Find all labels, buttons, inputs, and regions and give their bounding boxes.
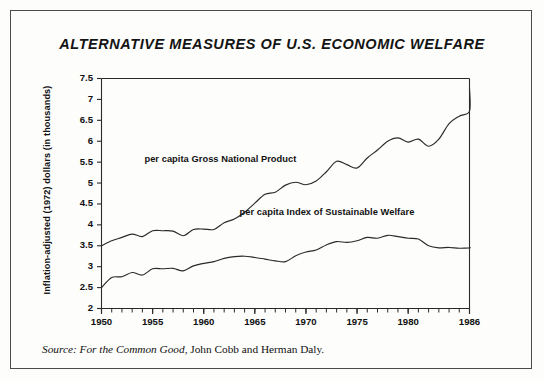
y-axis-tick-label: 4.5 bbox=[59, 198, 93, 208]
y-axis-tick-label: 3 bbox=[59, 261, 93, 271]
figure-container: ALTERNATIVE MEASURES OF U.S. ECONOMIC WE… bbox=[0, 0, 544, 381]
y-axis-tick-label: 7.5 bbox=[59, 73, 93, 83]
y-axis-tick-label: 2.5 bbox=[59, 282, 93, 292]
series-line-gnp bbox=[102, 88, 471, 246]
series-line-isw bbox=[102, 235, 471, 287]
source-note: Source: For the Common Good, John Cobb a… bbox=[42, 343, 324, 355]
y-axis-tick-label: 5 bbox=[59, 178, 93, 188]
x-axis-tick-label: 1960 bbox=[184, 317, 224, 327]
y-axis-tick-label: 6 bbox=[59, 136, 93, 146]
source-prefix: Source: bbox=[42, 343, 77, 355]
y-axis-tick-label: 2 bbox=[59, 303, 93, 313]
x-axis-tick-label: 1950 bbox=[82, 317, 122, 327]
y-axis-tick-label: 5.5 bbox=[59, 157, 93, 167]
y-axis-tick-label: 4 bbox=[59, 219, 93, 229]
x-axis-tick-label: 1986 bbox=[450, 317, 490, 327]
x-axis-tick-label: 1975 bbox=[337, 317, 377, 327]
x-axis-tick-label: 1955 bbox=[133, 317, 173, 327]
series-label-gnp: per capita Gross National Product bbox=[144, 154, 296, 164]
source-authors: , John Cobb and Herman Daly. bbox=[185, 343, 325, 355]
x-axis-tick-label: 1980 bbox=[388, 317, 428, 327]
x-axis-tick-label: 1965 bbox=[235, 317, 275, 327]
y-axis-label: Inflation-adjusted (1972) dollars (in th… bbox=[42, 70, 52, 310]
y-axis-tick-label: 6.5 bbox=[59, 115, 93, 125]
y-axis-tick-label: 3.5 bbox=[59, 240, 93, 250]
source-book-title: For the Common Good bbox=[80, 343, 185, 355]
y-axis-tick-label: 7 bbox=[59, 94, 93, 104]
x-axis-tick-label: 1970 bbox=[286, 317, 326, 327]
series-label-isw: per capita Index of Sustainable Welfare bbox=[240, 207, 415, 217]
